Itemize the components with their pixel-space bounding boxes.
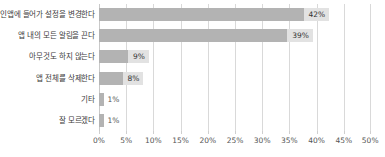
bar-wrap: 8%	[99, 68, 143, 89]
bar-row: 앱 전체를 삭제한다 8%	[99, 68, 371, 89]
bar	[99, 8, 328, 21]
category-label: 인앱에 들어가 설정을 변경한다	[0, 4, 95, 25]
bar-wrap: 42%	[99, 4, 329, 25]
bar-row: 인앱에 들어가 설정을 변경한다 42%	[99, 4, 371, 25]
plot-area: 인앱에 들어가 설정을 변경한다 42% 앱 내의 모든 알림을 끈다 39% …	[99, 4, 371, 131]
bar-value-label: 8%	[123, 72, 144, 85]
bar-row: 앱 내의 모든 알림을 끈다 39%	[99, 25, 371, 46]
x-tick-mark	[126, 131, 127, 134]
x-tick-mark	[99, 131, 100, 134]
bar-wrap: 1%	[99, 110, 123, 131]
bar-wrap: 1%	[99, 89, 123, 110]
bar-row: 아무것도 하지 않는다 9%	[99, 46, 371, 67]
category-label: 아무것도 하지 않는다	[29, 46, 95, 67]
x-tick-label: 25%	[227, 136, 244, 145]
x-tick-mark	[370, 131, 371, 134]
x-tick-label: 0%	[93, 136, 105, 145]
bar-wrap: 9%	[99, 46, 149, 67]
x-tick-label: 35%	[281, 136, 298, 145]
bar-row: 기타 1%	[99, 89, 371, 110]
bar-value-label: 39%	[287, 29, 313, 42]
x-tick-label: 30%	[254, 136, 271, 145]
x-tick-label: 10%	[145, 136, 162, 145]
bar-wrap: 39%	[99, 25, 313, 46]
category-label: 기타	[81, 89, 95, 110]
bar-value-label: 9%	[128, 50, 149, 63]
bar-value-label: 1%	[104, 114, 123, 127]
x-tick-mark	[289, 131, 290, 134]
bar-row: 잘 모르겠다 1%	[99, 110, 371, 131]
x-axis: 0% 5% 10% 15% 20% 25% 30% 35% 40% 45% 50…	[99, 131, 371, 157]
bar	[99, 29, 311, 42]
x-tick-label: 45%	[335, 136, 352, 145]
x-tick-mark	[208, 131, 209, 134]
x-tick-mark	[344, 131, 345, 134]
x-tick-mark	[317, 131, 318, 134]
bar-value-label: 1%	[104, 93, 123, 106]
x-tick-mark	[153, 131, 154, 134]
category-label: 앱 내의 모든 알림을 끈다	[18, 25, 95, 46]
x-tick-mark	[181, 131, 182, 134]
x-tick-label: 5%	[120, 136, 132, 145]
x-tick-mark	[235, 131, 236, 134]
horizontal-bar-chart: 인앱에 들어가 설정을 변경한다 42% 앱 내의 모든 알림을 끈다 39% …	[0, 0, 385, 157]
category-label: 앱 전체를 삭제한다	[36, 68, 95, 89]
x-tick-label: 50%	[362, 136, 379, 145]
x-tick-label: 40%	[308, 136, 325, 145]
x-tick-mark	[262, 131, 263, 134]
x-tick-label: 15%	[172, 136, 189, 145]
x-tick-label: 20%	[199, 136, 216, 145]
category-label: 잘 모르겠다	[59, 110, 95, 131]
bar-value-label: 42%	[304, 8, 330, 21]
bar-rows: 인앱에 들어가 설정을 변경한다 42% 앱 내의 모든 알림을 끈다 39% …	[99, 4, 371, 131]
